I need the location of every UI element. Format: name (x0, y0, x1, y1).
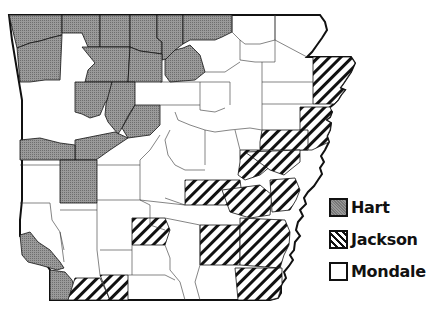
legend-label-jackson: Jackson (351, 230, 418, 249)
legend-label-hart: Hart (351, 198, 390, 217)
hart-swatch-icon (329, 198, 348, 217)
jackson-swatch-icon (329, 230, 348, 249)
legend-item-mondale: Mondale (329, 259, 426, 283)
legend-item-jackson: Jackson (329, 227, 426, 251)
map-legend: Hart Jackson Mondale (329, 195, 426, 291)
legend-item-hart: Hart (329, 195, 426, 219)
legend-label-mondale: Mondale (351, 262, 426, 281)
mondale-swatch-icon (329, 262, 348, 281)
